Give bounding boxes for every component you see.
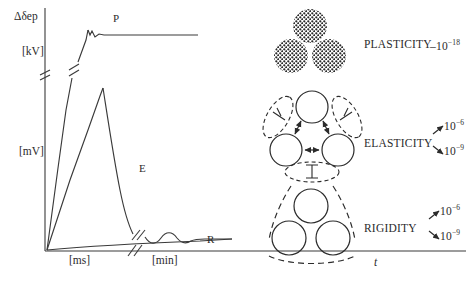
x-axis-unit-min: [min] (152, 254, 178, 266)
rigidity-hi-exponent: −6 (452, 203, 460, 212)
elasticity-hi-base: 10 (444, 120, 456, 132)
curve-plasticity (47, 30, 198, 250)
schematic-label-rigidity: RIGIDITY (364, 222, 417, 234)
figure-root: Δδep [kV] [mV] [ms] [min] t P E R (0, 0, 472, 294)
curve-plasticity-break-icon (69, 64, 79, 76)
curve-elasticity-break-icon (132, 230, 145, 240)
x-axis-unit-ms: [ms] (69, 254, 90, 266)
elasticity-interaction-arrows (295, 121, 329, 150)
elasticity-hi-exponent: −6 (456, 118, 464, 127)
particle-dotted-top (293, 9, 327, 43)
schematic-plasticity-particles (274, 9, 346, 73)
elasticity-lo-exponent: −9 (456, 143, 464, 152)
y-axis-unit-kv: [kV] (22, 45, 44, 57)
elasticity-lo-base: 10 (444, 145, 456, 157)
arrow-top-left (295, 121, 301, 134)
particle-open-top (296, 91, 328, 123)
schematic-elasticity-particles (270, 91, 354, 166)
schematic-value-elasticity-hi: 10−6 (444, 118, 464, 132)
curve-elasticity (47, 88, 133, 250)
y-axis-unit-mv: [mV] (19, 145, 44, 157)
curve-label-elasticity: E (139, 162, 146, 174)
schematic-value-plasticity: –10−18 (430, 38, 460, 52)
leader-elasticity-lo (433, 146, 443, 154)
rigidity-lo-base: 10 (440, 230, 452, 242)
particle-dotted-left (274, 39, 308, 73)
schematic-value-elasticity-lo: 10−9 (444, 143, 464, 157)
curve-label-rigidity: R (207, 233, 214, 245)
arrow-top-right (323, 121, 329, 134)
schematic-value-rigidity-hi: 10−6 (440, 203, 460, 217)
schematic-value-rigidity-lo: 10−9 (440, 228, 460, 242)
rigidity-lo-exponent: −9 (452, 228, 460, 237)
particle-open-left (270, 134, 302, 166)
y-axis-title: Δδep (14, 10, 38, 22)
rigidity-hi-base: 10 (440, 205, 452, 217)
plasticity-base: 10 (436, 40, 448, 52)
leader-rigidity-lo (429, 231, 439, 239)
schematic-label-plasticity: PLASTICITY (364, 38, 432, 50)
dimension-ellipse-left (257, 92, 299, 143)
particle-packed-top (294, 189, 328, 223)
curve-label-plasticity: P (113, 12, 119, 24)
particle-dotted-right (312, 39, 346, 73)
schematic-label-elasticity: ELASTICITY (364, 137, 432, 149)
elasticity-dimension-ticks (273, 108, 352, 178)
particle-packed-left (272, 221, 306, 255)
particle-open-right (322, 134, 354, 166)
leader-elasticity-hi (433, 126, 443, 134)
particle-packed-right (316, 221, 350, 255)
plasticity-exponent: −18 (448, 38, 460, 47)
leader-rigidity-hi (429, 211, 439, 219)
